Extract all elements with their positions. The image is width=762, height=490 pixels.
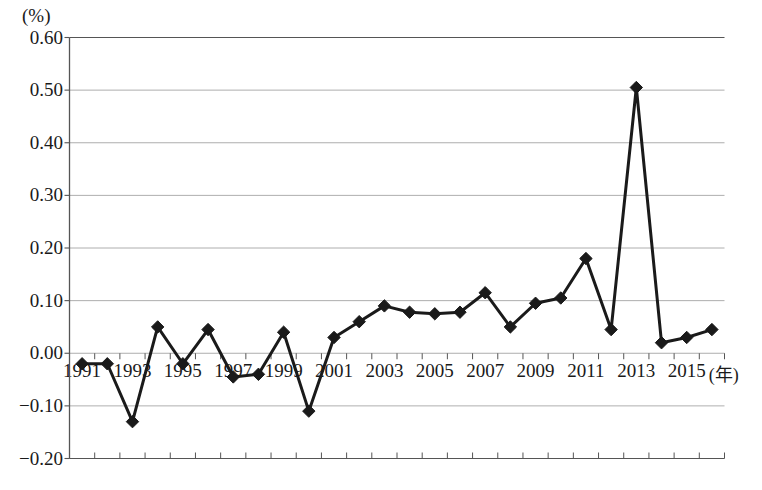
data-point-marker — [403, 306, 415, 318]
data-point-marker — [126, 415, 138, 427]
data-point-marker — [227, 371, 239, 383]
series-path — [82, 87, 712, 421]
data-point-marker — [101, 358, 113, 370]
data-point-marker — [605, 323, 617, 335]
data-point-marker — [681, 331, 693, 343]
data-point-marker — [303, 405, 315, 417]
chart-container: (%) (年) 0.600.500.400.300.200.100.00−0.1… — [0, 0, 762, 490]
data-point-marker — [655, 337, 667, 349]
data-point-marker — [630, 81, 642, 93]
y-axis-ticks — [65, 38, 70, 459]
data-series-markers — [76, 81, 718, 428]
data-series-line — [82, 87, 712, 421]
gridlines — [70, 38, 725, 459]
data-point-marker — [706, 323, 718, 335]
data-point-marker — [429, 308, 441, 320]
data-point-marker — [76, 358, 88, 370]
line-chart-plot — [0, 0, 762, 490]
